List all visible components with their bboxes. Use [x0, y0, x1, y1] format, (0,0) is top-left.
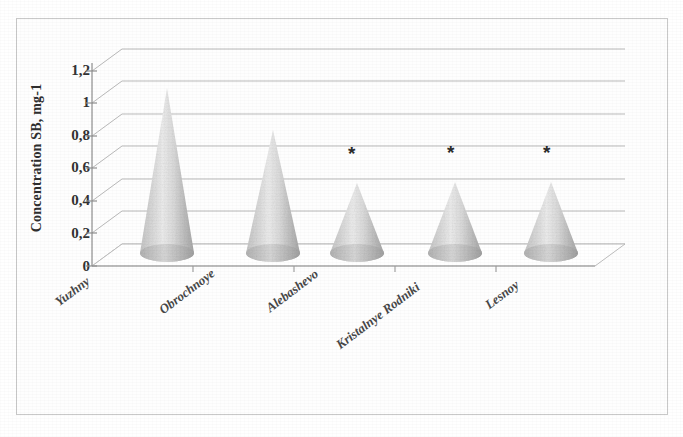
cone-kristalnye-rodniki[interactable] [428, 182, 482, 262]
y-axis-line [86, 63, 97, 266]
chart-svg-canvas [0, 0, 683, 437]
cone-alebashevo[interactable] [330, 183, 384, 262]
significance-asterisk-alebashevo: * [348, 144, 355, 163]
significance-asterisk-kristalnye-rodniki: * [447, 143, 454, 162]
cone-lesnoy[interactable] [524, 182, 578, 262]
significance-asterisk-lesnoy: * [543, 143, 550, 162]
chart-plot-area: Concentration SB, mg-1 1,2 1 0,8 0,6 0,4… [0, 0, 683, 437]
cone-obrochnoye[interactable] [246, 130, 300, 262]
x-axis-line [92, 266, 595, 272]
